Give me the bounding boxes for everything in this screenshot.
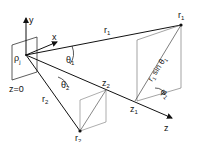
origin-point: [25, 54, 27, 56]
y-label: y: [29, 15, 34, 25]
z2-label: z2: [102, 78, 111, 89]
theta2-label: θ2: [61, 80, 70, 91]
z-label: z: [164, 123, 169, 133]
geometry-diagram: y x z z=0 ρj r1 r1 θ1 r2 θ2 z2 r2 z1 r1 …: [0, 0, 200, 142]
r1-point: [179, 23, 182, 26]
x-label: x: [52, 32, 57, 42]
plane-label: z=0: [9, 84, 24, 94]
r2-sin-line: [80, 90, 106, 131]
r1-line-label: r1: [104, 25, 111, 36]
r1-sin-theta-label: r1 sin θ1: [146, 55, 169, 84]
r2-point-label: r2: [75, 133, 82, 142]
phi-label: φ1: [158, 86, 173, 101]
z1-label: z1: [130, 104, 139, 115]
rho-label: ρj: [14, 53, 20, 65]
r2-point: [78, 129, 81, 132]
r1-point-label: r1: [178, 10, 185, 21]
x-axis: [26, 42, 57, 55]
r2-line-label: r2: [42, 94, 49, 105]
